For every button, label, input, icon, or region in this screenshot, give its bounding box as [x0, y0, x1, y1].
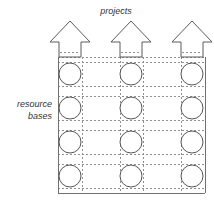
resource-node[interactable] [181, 97, 203, 119]
resource-node[interactable] [59, 131, 81, 153]
resource-node[interactable] [59, 165, 81, 187]
resource-bases-label-line1: resource [17, 99, 52, 109]
projects-label: projects [99, 6, 132, 16]
resource-node[interactable] [181, 165, 203, 187]
resource-bases-label-line2: bases [28, 111, 53, 121]
resource-node[interactable] [120, 97, 142, 119]
diagram-canvas: projects resource bases [0, 0, 214, 208]
resource-node[interactable] [59, 63, 81, 85]
resource-node[interactable] [120, 165, 142, 187]
resource-node[interactable] [181, 131, 203, 153]
resource-node[interactable] [59, 97, 81, 119]
projects-resource-bases-diagram: projects resource bases [0, 0, 214, 208]
resource-node[interactable] [120, 63, 142, 85]
resource-node[interactable] [120, 131, 142, 153]
resource-node[interactable] [181, 63, 203, 85]
